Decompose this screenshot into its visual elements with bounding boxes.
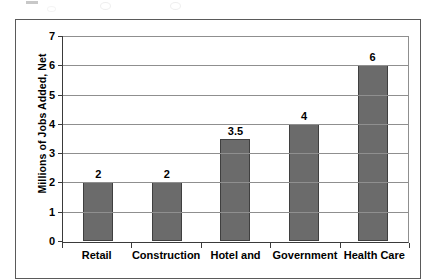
clipped-text-artifacts (0, 0, 430, 14)
x-axis-category-label: Retail (62, 249, 131, 261)
y-axis-tick (58, 124, 63, 125)
y-axis-tick (58, 95, 63, 96)
x-axis-category-label: Health Care (340, 249, 409, 261)
gridline (63, 95, 408, 96)
gridline (63, 182, 408, 183)
bar-category: 6 (338, 36, 407, 241)
x-axis-category-label: Government (270, 249, 339, 261)
x-axis-tick (131, 243, 132, 248)
x-axis-category-label: Construction (131, 249, 200, 261)
y-axis-tick-label: 3 (49, 147, 55, 159)
x-axis-tick (201, 243, 202, 248)
gridline (63, 124, 408, 125)
bar-value-label: 2 (164, 168, 170, 180)
y-axis-tick-label: 0 (49, 235, 55, 247)
bar-category: 2 (133, 36, 202, 241)
artifact-mark (170, 2, 181, 10)
x-axis-category-label: Hotel and (201, 249, 270, 261)
y-axis-tick (58, 65, 63, 66)
gridline (63, 153, 408, 154)
gridline (63, 65, 408, 66)
y-axis-tick-label: 5 (49, 89, 55, 101)
y-axis-tick (58, 153, 63, 154)
bar-category: 2 (64, 36, 133, 241)
bar-category: 3.5 (201, 36, 270, 241)
x-axis-tick (62, 243, 63, 248)
y-axis-tick (58, 241, 63, 242)
bars-layer: 223.546 (64, 36, 407, 241)
bar-value-label: 2 (95, 168, 101, 180)
y-axis-title: Millions of Jobs Added, Net (34, 20, 50, 227)
gridline (63, 36, 408, 37)
y-axis-tick-label: 1 (49, 206, 55, 218)
plot-area: 223.546 01234567 (62, 36, 409, 243)
artifact-mark (47, 6, 56, 12)
y-axis-tick-label: 7 (49, 30, 55, 42)
y-axis-tick (58, 212, 63, 213)
x-axis-ticks (62, 243, 409, 248)
y-axis-tick (58, 36, 63, 37)
artifact-mark (26, 1, 38, 4)
bar-value-label: 6 (370, 51, 376, 63)
y-axis-tick-label: 6 (49, 59, 55, 71)
chart-frame: Millions of Jobs Added, Net 223.546 0123… (15, 19, 421, 279)
x-axis-tick (270, 243, 271, 248)
x-axis-tick (409, 243, 410, 248)
x-axis-labels: RetailConstructionHotel andGovernmentHea… (62, 249, 409, 261)
y-axis-tick-label: 2 (49, 176, 55, 188)
bar-value-label: 4 (301, 110, 307, 122)
bar-value-label: 3.5 (228, 125, 243, 137)
gridline (63, 212, 408, 213)
artifact-mark (100, 2, 111, 10)
bar-category: 4 (270, 36, 339, 241)
y-axis-tick (58, 182, 63, 183)
y-axis-tick-label: 4 (49, 118, 55, 130)
x-axis-tick (340, 243, 341, 248)
